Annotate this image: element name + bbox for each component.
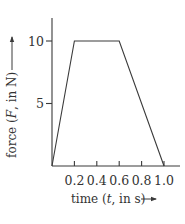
y-ticks: 510 — [28, 34, 52, 112]
axes — [52, 18, 180, 166]
x-axis-label: time (t, in s) — [71, 192, 145, 206]
force-time-chart: 510 0.20.40.60.81.0 force (F, in N) time… — [0, 0, 185, 224]
y-axis-label: force (F, in N) — [5, 72, 19, 158]
x-ticks: 0.20.40.60.81.0 — [64, 161, 174, 188]
x-tick-label: 0.6 — [109, 173, 129, 188]
x-tick-label: 0.4 — [87, 173, 107, 188]
x-tick-label: 1.0 — [154, 173, 174, 188]
y-tick-label: 10 — [28, 34, 44, 49]
x-tick-label: 0.2 — [64, 173, 84, 188]
force-curve — [52, 41, 164, 166]
y-tick-label: 5 — [36, 96, 44, 111]
y-axis-label-group: force (F, in N) — [5, 37, 19, 158]
x-tick-label: 0.8 — [132, 173, 152, 188]
x-axis-label-group: time (t, in s) — [71, 192, 156, 206]
